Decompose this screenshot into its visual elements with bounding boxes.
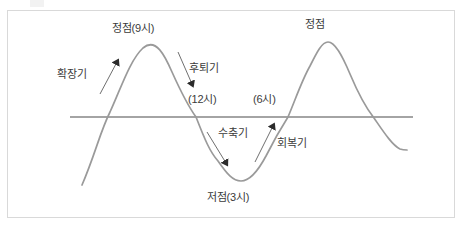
label-expansion-phase: 확장기	[57, 68, 86, 81]
label-peak-second: 정점	[305, 18, 325, 31]
recovery-arrow-icon	[255, 126, 273, 162]
label-time-twelve: (12시)	[188, 93, 217, 106]
business-cycle-curve	[82, 42, 407, 185]
label-peak-first: 정점(9시)	[112, 22, 154, 35]
label-recession-phase: 후퇴기	[189, 62, 218, 75]
label-recovery-phase: 회복기	[277, 137, 306, 150]
label-trough: 저점(3시)	[207, 191, 249, 204]
label-time-six: (6시)	[253, 93, 276, 106]
label-contraction-phase: 수축기	[218, 127, 247, 140]
expansion-arrow-icon	[100, 62, 117, 94]
business-cycle-figure: 정점(9시) 정점 확장기 후퇴기 (12시) (6시) 수축기 회복기 저점(…	[0, 0, 474, 231]
